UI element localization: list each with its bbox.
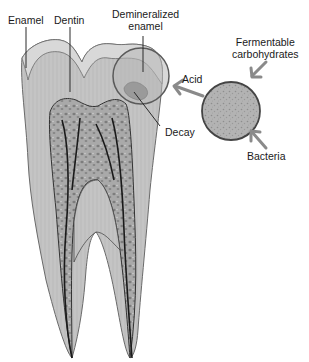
label-acid: Acid (182, 73, 202, 85)
label-bacteria: Bacteria (247, 150, 286, 162)
label-demineralized-enamel: Demineralized enamel (112, 8, 179, 32)
label-demineralized-line1: Demineralized (112, 8, 179, 20)
label-demineralized-line2: enamel (112, 20, 179, 32)
label-fermentable-line1: Fermentable (232, 36, 299, 48)
label-decay: Decay (165, 126, 195, 138)
demineralized-zone (113, 48, 169, 104)
label-dentin: Dentin (54, 14, 84, 26)
label-enamel: Enamel (8, 14, 44, 26)
label-fermentable-line2: carbohydrates (232, 48, 299, 60)
diagram: Enamel Dentin Demineralized enamel Ferme… (0, 0, 309, 362)
label-fermentable-carbohydrates: Fermentable carbohydrates (232, 36, 299, 60)
